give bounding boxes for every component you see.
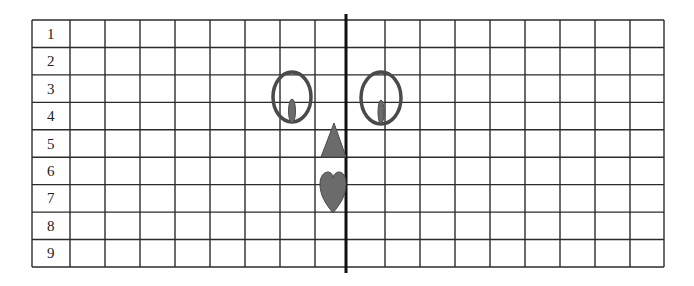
right-eye-icon bbox=[361, 72, 401, 124]
row-label: 5 bbox=[47, 136, 55, 152]
symmetry-grid-diagram: 123456789 bbox=[0, 0, 694, 286]
row-label: 3 bbox=[47, 81, 55, 97]
row-label: 8 bbox=[47, 218, 55, 234]
row-label: 1 bbox=[47, 26, 55, 42]
row-label: 2 bbox=[47, 53, 55, 69]
grid-lines bbox=[32, 20, 664, 267]
heart-icon bbox=[320, 172, 346, 213]
nose-triangle-icon bbox=[321, 123, 346, 157]
row-label: 7 bbox=[47, 190, 55, 206]
row-label: 9 bbox=[47, 245, 55, 261]
row-labels: 123456789 bbox=[47, 26, 55, 262]
row-label: 4 bbox=[47, 108, 55, 124]
left-eye-icon bbox=[273, 72, 311, 123]
row-label: 6 bbox=[47, 163, 55, 179]
